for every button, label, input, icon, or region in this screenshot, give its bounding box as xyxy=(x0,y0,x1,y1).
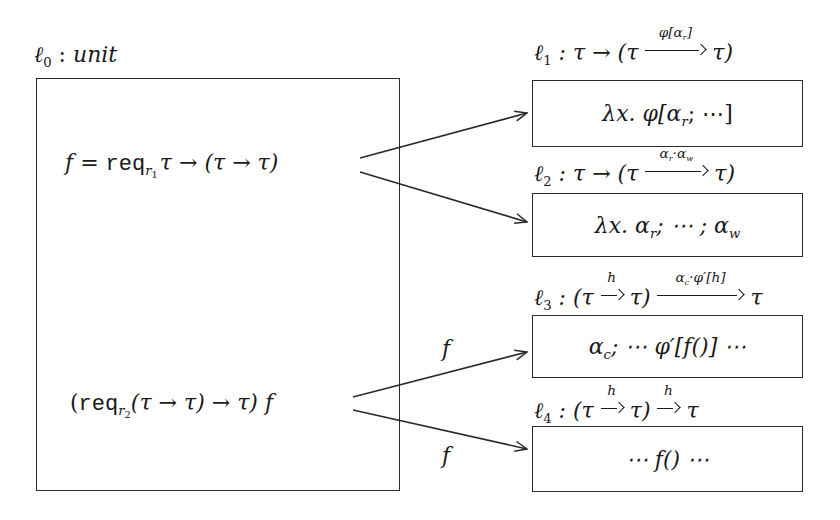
target-1-body: λx. φ[αr; ⋯] xyxy=(532,103,803,125)
label-index: 2 xyxy=(543,174,551,189)
label-index: 3 xyxy=(543,298,551,313)
expr-type: τ → (τ → τ) xyxy=(160,150,279,175)
body-post: ; ⋯ φ′[f()] ⋯ xyxy=(611,334,746,359)
label-type-post: τ xyxy=(743,285,762,310)
edge-label-f-upper: f xyxy=(442,338,450,360)
long-arrow-icon xyxy=(645,159,707,181)
expr-f: f xyxy=(65,150,73,175)
ell-symbol: ℓ xyxy=(34,42,43,67)
body-sub: c xyxy=(604,347,611,362)
arrow-icon xyxy=(657,396,679,418)
source-expr-2: (reqr2(τ → τ) → τ) f xyxy=(70,392,273,416)
body-text: ⋯ f() ⋯ xyxy=(626,447,709,472)
body-post: ; ⋯] xyxy=(688,101,733,126)
arrow-icon xyxy=(601,396,623,418)
source-box-label: ℓ0 : unit xyxy=(34,44,117,66)
label-type-mid: τ) xyxy=(623,398,658,423)
target-1-label: ℓ1 : τ → (τ φ[αr] τ) xyxy=(534,38,733,64)
label-type: unit xyxy=(73,42,117,67)
long-arrow-icon xyxy=(657,283,743,305)
source-expr-1: f = reqr1τ → (τ → τ) xyxy=(65,152,278,176)
target-4-body: ⋯ f() ⋯ xyxy=(532,449,803,471)
label-type-post: τ) xyxy=(705,40,733,65)
ell-symbol: ℓ xyxy=(534,285,543,310)
small-annotated-arrow: h xyxy=(601,396,623,422)
expr-arg-f: f xyxy=(265,390,273,415)
ell-symbol: ℓ xyxy=(534,398,543,423)
annotated-arrow: φ[αr] xyxy=(645,38,705,64)
target-4-label: ℓ4 : (τ h τ) h τ xyxy=(534,396,699,422)
ell-symbol: ℓ xyxy=(534,40,543,65)
body-text: α xyxy=(589,334,604,359)
label-type-pre: : (τ xyxy=(552,398,601,423)
source-box xyxy=(36,78,400,491)
target-3-label: ℓ3 : (τ h τ) αc·φ′[h] τ xyxy=(534,283,763,309)
label-type-post: τ) xyxy=(707,161,735,186)
expr-type: (τ → τ) → τ) xyxy=(131,390,258,415)
req-keyword: req xyxy=(106,152,146,177)
label-type-pre: : τ → (τ xyxy=(552,161,646,186)
label-sep: : xyxy=(52,42,73,67)
small-annotated-arrow: h xyxy=(601,283,623,309)
body-text: λx. φ[α xyxy=(602,101,681,126)
label-type-pre: : (τ xyxy=(552,285,601,310)
expr-paren: ( xyxy=(70,390,79,415)
annotated-arrow: αr·αw xyxy=(645,159,707,185)
ell-symbol: ℓ xyxy=(534,161,543,186)
label-type-pre: : τ → (τ xyxy=(552,40,646,65)
body-mid: ; ⋯ ; α xyxy=(656,213,729,238)
label-index: 1 xyxy=(543,53,551,68)
req-subsub: 1 xyxy=(152,169,158,180)
req-keyword: req xyxy=(79,392,119,417)
target-2-label: ℓ2 : τ → (τ αr·αw τ) xyxy=(534,159,735,185)
label-index: 4 xyxy=(543,411,551,426)
small-annotated-arrow: h xyxy=(657,396,679,422)
target-2-body: λx. αr; ⋯ ; αw xyxy=(532,215,803,237)
long-arrow-icon xyxy=(645,38,705,60)
expr-eq: = xyxy=(73,150,105,175)
target-3-body: αc; ⋯ φ′[f()] ⋯ xyxy=(532,336,803,358)
body-sub2: w xyxy=(729,226,740,241)
arrow-icon xyxy=(601,283,623,305)
label-index: 0 xyxy=(43,55,51,70)
edge-label-f-lower: f xyxy=(442,445,450,467)
label-type-post: τ xyxy=(679,398,698,423)
body-text: λx. α xyxy=(595,213,650,238)
label-type-mid: τ) xyxy=(623,285,658,310)
annotated-arrow: αc·φ′[h] xyxy=(657,283,743,309)
